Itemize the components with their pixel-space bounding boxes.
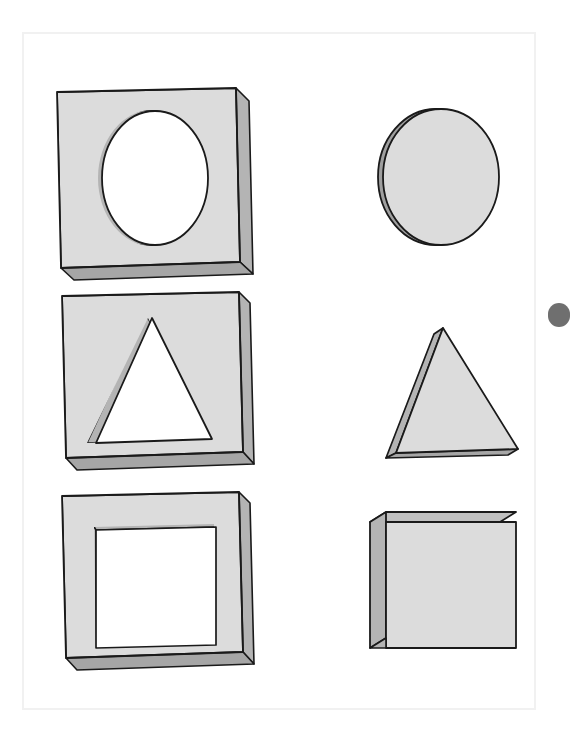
plate-square-hole-opening: [96, 527, 216, 648]
shape-plate-with-square-hole: [62, 492, 254, 670]
shape-cylinder-disc: [378, 109, 499, 245]
shape-triangular-prism: [386, 328, 518, 458]
shape-plate-with-triangular-hole: [62, 292, 254, 470]
shape-cube-block: [370, 512, 516, 648]
cube-top-face: [370, 512, 516, 522]
plate-circle-hole-opening: [102, 111, 208, 245]
cube-front-face: [386, 522, 516, 648]
shape-plate-with-circular-hole: [57, 88, 253, 280]
cube-left-face: [370, 512, 386, 648]
cylinder-front-face: [383, 109, 499, 245]
edge-pill-indicator[interactable]: [548, 303, 570, 327]
